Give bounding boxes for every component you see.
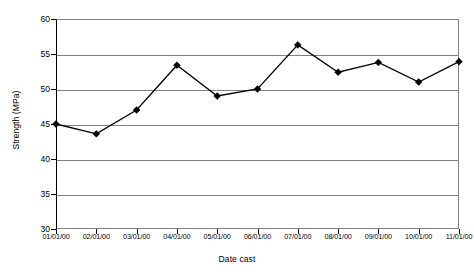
data-point-marker xyxy=(375,59,382,66)
data-point-marker xyxy=(415,79,422,86)
data-point-marker xyxy=(456,58,463,65)
data-point-marker xyxy=(93,130,100,137)
x-axis-title-text: Date cast xyxy=(219,254,256,264)
series-layer xyxy=(0,0,474,276)
line-chart: Strength (MPa) 30354045505560 01/01/0002… xyxy=(0,0,474,276)
x-axis-title: Date cast xyxy=(0,254,474,264)
data-point-marker xyxy=(53,121,60,128)
